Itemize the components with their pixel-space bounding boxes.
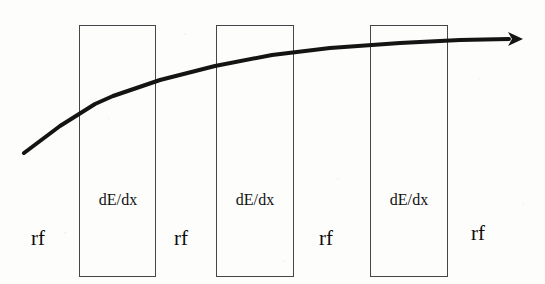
accelerator-schematic-figure: dE/dx dE/dx dE/dx rf rf rf rf: [0, 0, 545, 284]
rf-label-2: rf: [174, 226, 188, 251]
dedx-label-2: dE/dx: [222, 191, 288, 209]
absorber-box-1: [79, 25, 156, 277]
arrowhead-icon: [508, 32, 523, 46]
rf-label-4: rf: [471, 221, 485, 246]
rf-label-1: rf: [31, 226, 45, 251]
absorber-box-2: [216, 25, 294, 277]
dedx-label-3: dE/dx: [376, 191, 442, 209]
dedx-label-1: dE/dx: [85, 191, 151, 209]
rf-label-3: rf: [319, 226, 333, 251]
absorber-box-3: [370, 25, 448, 277]
